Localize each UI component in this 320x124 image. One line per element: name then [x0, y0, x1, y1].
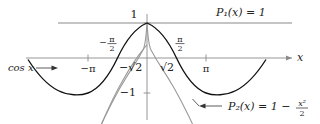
minus-half-pi-numerator: π: [109, 35, 114, 44]
p1-function-label: P₁(x) = 1: [215, 6, 266, 19]
plot-canvas: x 1 −1 −π π − π 2 π 2 −√2 √2 cos x P₁(x)…: [0, 0, 320, 124]
p2-function-label-group: P₂(x) = 1 − x² 2: [227, 99, 308, 118]
tick-label-half-pi: π 2: [176, 35, 185, 54]
cos-leader-arrowhead: [52, 65, 59, 70]
minus-half-pi-denominator: 2: [109, 44, 114, 53]
p2-fraction-numerator: x²: [298, 99, 306, 108]
p2-parabola-left: [102, 45, 148, 124]
p2-function-label-prefix: P₂(x) = 1 −: [227, 100, 291, 113]
minus-half-pi-sign: −: [99, 37, 107, 47]
root-sqrt2-label: √2: [160, 61, 174, 74]
y-minus-one-label: −1: [120, 86, 136, 99]
half-pi-numerator: π: [177, 35, 182, 44]
y-one-label: 1: [131, 8, 138, 21]
half-pi-denominator: 2: [177, 44, 182, 53]
tick-label-minus-half-pi: − π 2: [99, 35, 116, 54]
x-axis-label: x: [297, 51, 304, 64]
cos-function-label: cos x: [8, 62, 34, 73]
x-axis-arrowhead: [286, 56, 292, 61]
root-minus-sqrt2-label: −√2: [119, 61, 142, 74]
p2-label-leader-group: [193, 99, 223, 109]
tick-label-minus-pi: −π: [81, 63, 96, 74]
p2-fraction-denominator: 2: [299, 109, 304, 118]
p2-leader-hook: [193, 99, 200, 106]
cos-label-leader-group: [36, 65, 58, 70]
taylor-approximation-figure: x 1 −1 −π π − π 2 π 2 −√2 √2 cos x P₁(x)…: [0, 0, 320, 124]
tick-label-pi: π: [203, 63, 210, 74]
p2-leader-arrowhead: [199, 103, 206, 108]
